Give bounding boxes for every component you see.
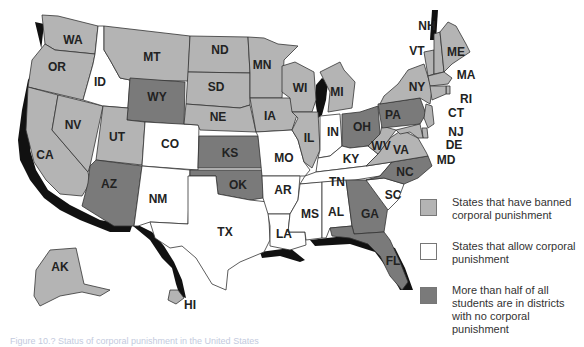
state-label-vt: VT xyxy=(409,44,424,58)
state-label-az: AZ xyxy=(101,177,117,191)
state-label-mi: MI xyxy=(330,85,343,99)
state-label-va: VA xyxy=(393,143,409,157)
legend-item-majority: More than half of all students are in di… xyxy=(420,284,580,336)
state-label-ri: RI xyxy=(460,92,472,106)
legend-swatch-majority xyxy=(420,287,437,304)
state-label-wv: WV xyxy=(371,139,390,153)
state-NJ[interactable] xyxy=(424,104,434,128)
state-label-ne: NE xyxy=(210,110,227,124)
state-label-oh: OH xyxy=(353,120,371,134)
state-label-ok: OK xyxy=(229,178,247,192)
state-label-fl: FL xyxy=(386,254,401,268)
legend-label-banned: States that have banned corporal punishm… xyxy=(452,196,580,222)
state-label-co: CO xyxy=(161,137,179,151)
state-label-ky: KY xyxy=(343,152,360,166)
legend-swatch-banned xyxy=(420,199,437,216)
state-label-ma: MA xyxy=(457,68,476,82)
gulf-coast-band-2 xyxy=(260,248,305,262)
legend-label-allowed: States that allow corporal punishment xyxy=(452,240,580,266)
state-label-wi: WI xyxy=(293,81,308,95)
state-label-ar: AR xyxy=(274,183,291,197)
state-label-nv: NV xyxy=(65,118,82,132)
state-label-hi: HI xyxy=(184,298,196,312)
state-label-il: IL xyxy=(304,131,315,145)
legend-item-banned: States that have banned corporal punishm… xyxy=(420,196,580,222)
state-label-la: LA xyxy=(276,227,292,241)
state-label-me: ME xyxy=(447,45,465,59)
state-label-wy: WY xyxy=(147,90,166,104)
state-label-md: MD xyxy=(437,153,456,167)
legend-swatch-allowed xyxy=(420,243,437,260)
legend: States that have banned corporal punishm… xyxy=(420,196,580,347)
state-label-de: DE xyxy=(446,138,463,152)
legend-item-allowed: States that allow corporal punishment xyxy=(420,240,580,266)
state-label-nj: NJ xyxy=(448,125,463,139)
state-label-al: AL xyxy=(328,205,344,219)
state-label-or: OR xyxy=(48,60,66,74)
state-label-ak: AK xyxy=(51,260,68,274)
state-label-id: ID xyxy=(94,75,106,89)
state-RI[interactable] xyxy=(446,86,450,94)
state-label-pa: PA xyxy=(385,108,401,122)
state-label-mn: MN xyxy=(253,58,272,72)
figure-caption: Figure 10.? Status of corporal punishmen… xyxy=(10,336,259,346)
state-label-ks: KS xyxy=(222,146,239,160)
state-label-ny: NY xyxy=(409,80,426,94)
state-label-ga: GA xyxy=(361,207,379,221)
legend-label-majority: More than half of all students are in di… xyxy=(452,284,580,336)
state-label-ct: CT xyxy=(448,106,464,120)
state-label-sd: SD xyxy=(208,80,225,94)
state-CT[interactable] xyxy=(430,86,446,100)
state-label-mo: MO xyxy=(274,151,293,165)
state-label-ia: IA xyxy=(264,109,276,123)
state-label-wa: WA xyxy=(63,33,82,47)
state-label-ut: UT xyxy=(109,130,125,144)
state-label-tx: TX xyxy=(217,225,232,239)
state-label-nm: NM xyxy=(149,192,168,206)
state-label-nh: NH xyxy=(418,19,435,33)
state-AK[interactable] xyxy=(34,248,110,306)
state-label-nd: ND xyxy=(211,43,228,57)
state-label-tn: TN xyxy=(329,175,345,189)
states xyxy=(26,15,470,306)
state-label-nc: NC xyxy=(396,165,413,179)
state-label-ca: CA xyxy=(36,148,53,162)
state-label-sc: SC xyxy=(385,188,402,202)
state-label-mt: MT xyxy=(143,50,160,64)
state-label-in: IN xyxy=(327,125,339,139)
state-label-ms: MS xyxy=(301,207,319,221)
